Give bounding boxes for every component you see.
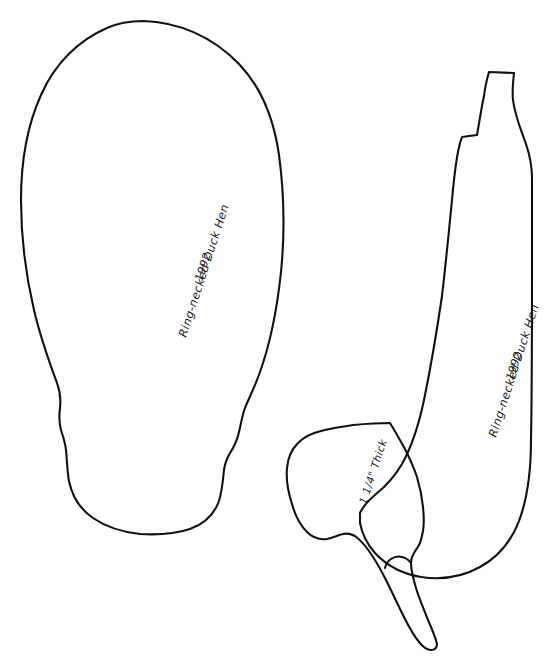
top-view-body-outline [21, 21, 283, 534]
pattern-sheet: Ring-necked Duck Hen 1992 Ring-necked Du… [0, 0, 558, 662]
pattern-drawing: Ring-necked Duck Hen 1992 Ring-necked Du… [0, 0, 558, 662]
